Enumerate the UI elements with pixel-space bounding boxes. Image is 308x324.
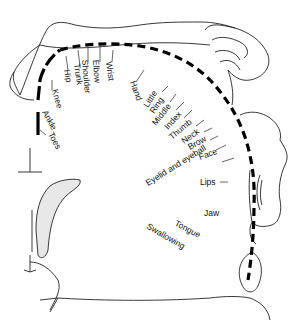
label-toes: Toes bbox=[46, 130, 63, 151]
label-eyelid-and-eyeball: Eyelid and eyeball bbox=[144, 143, 208, 188]
label-ankle: Ankle bbox=[40, 108, 59, 132]
body-drawing bbox=[10, 22, 287, 320]
label-hip: Hip bbox=[62, 69, 74, 84]
leader-lines bbox=[40, 46, 234, 182]
labels: Toes Ankle Knee Hip Trunk Shoulder Elbow… bbox=[40, 59, 220, 251]
label-elbow: Elbow bbox=[91, 59, 103, 84]
diagram-canvas: Toes Ankle Knee Hip Trunk Shoulder Elbow… bbox=[0, 0, 308, 324]
label-lips: Lips bbox=[200, 177, 216, 187]
label-shoulder: Shoulder bbox=[80, 59, 93, 94]
motor-homunculus-diagram: Toes Ankle Knee Hip Trunk Shoulder Elbow… bbox=[0, 0, 308, 324]
label-hand: Hand bbox=[128, 79, 144, 102]
label-knee: Knee bbox=[50, 88, 65, 110]
stippled-structure bbox=[32, 179, 80, 257]
label-jaw: Jaw bbox=[204, 208, 220, 218]
label-wrist: Wrist bbox=[104, 61, 117, 82]
